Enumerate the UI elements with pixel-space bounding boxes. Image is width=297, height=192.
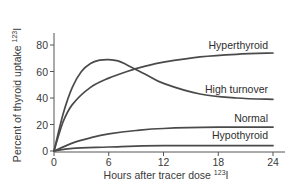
y-ticks: 020406080 — [36, 39, 54, 157]
y-tick-label: 60 — [36, 66, 48, 78]
uptake-chart: 020406080 06121824 Hyperthyroid High tur… — [0, 0, 297, 192]
label-high-turnover: High turnover — [205, 83, 269, 95]
x-tick-label: 12 — [158, 156, 170, 168]
y-tick-label: 0 — [42, 145, 48, 157]
y-axis-title: Percent of thyroid uptake 123I — [11, 28, 23, 162]
label-normal: Normal — [234, 112, 268, 124]
y-tick-label: 20 — [36, 119, 48, 131]
label-hypothyroid: Hypothyroid — [212, 129, 268, 141]
x-tick-label: 6 — [106, 156, 112, 168]
label-hyperthyroid: Hyperthyroid — [208, 39, 268, 51]
x-tick-label: 24 — [267, 156, 279, 168]
x-axis-title: Hours after tracer dose 123I — [104, 169, 229, 181]
x-ticks: 06121824 — [51, 152, 279, 168]
curve-hypothyroid — [54, 146, 273, 151]
y-tick-label: 40 — [36, 92, 48, 104]
y-tick-label: 80 — [36, 39, 48, 51]
x-tick-label: 18 — [212, 156, 224, 168]
x-tick-label: 0 — [51, 156, 57, 168]
